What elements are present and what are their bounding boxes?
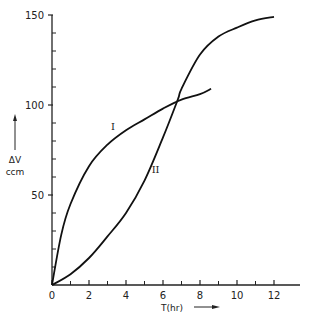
- y-label-line1: ΔV: [9, 155, 22, 165]
- right-arrow-icon: [212, 305, 220, 309]
- x-tick-label: 4: [123, 290, 129, 301]
- up-arrow-icon: [13, 114, 17, 121]
- curve-series-i: [52, 89, 211, 285]
- y-tick-label: 50: [31, 190, 44, 201]
- x-label-text: T(hr): [160, 303, 183, 313]
- x-tick-label: 2: [86, 290, 92, 301]
- y-label-line2: ccm: [6, 167, 25, 177]
- curve-label-ii: II: [152, 164, 160, 175]
- line-chart: 50100150 024681012 ΔV ccm T(hr) I II: [0, 0, 311, 318]
- x-tick-label: 0: [49, 290, 55, 301]
- x-axis-label: T(hr): [160, 303, 220, 313]
- x-axis-ticks: 024681012: [49, 280, 281, 301]
- x-tick-label: 10: [231, 290, 244, 301]
- y-tick-label: 150: [25, 10, 44, 21]
- x-tick-label: 12: [268, 290, 281, 301]
- y-axis-label: ΔV ccm: [6, 114, 25, 177]
- curve-label-i: I: [111, 121, 115, 132]
- chart-curves: I II: [52, 17, 274, 285]
- y-axis-ticks: 50100150: [25, 10, 56, 267]
- x-tick-label: 8: [197, 290, 203, 301]
- curve-series-ii: [52, 17, 274, 285]
- chart-axes: 50100150 024681012: [25, 10, 300, 301]
- x-tick-label: 6: [160, 290, 166, 301]
- y-tick-label: 100: [25, 100, 44, 111]
